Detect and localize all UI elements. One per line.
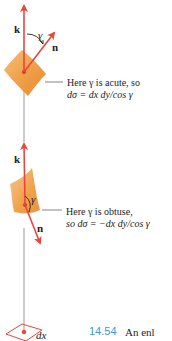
top-note-line2: dσ = dx dy/cos γ	[67, 89, 140, 101]
bottom-k-label: k	[14, 154, 20, 165]
top-note-line1: Here γ is acute, so	[67, 77, 140, 89]
bottom-n-label: n	[37, 223, 43, 234]
top-note: Here γ is acute, so dσ = dx dy/cos γ	[67, 77, 140, 101]
figure-number: 14.54	[89, 325, 117, 337]
surface-area-figure: k γ n Here γ is acute, so dσ = dx dy/cos…	[0, 0, 172, 341]
bottom-note: Here γ is obtuse, so dσ = −dx dy/cos γ	[66, 206, 150, 230]
bottom-k-vector	[24, 144, 25, 205]
top-gamma-label: γ	[38, 30, 42, 41]
bottom-note-line1: Here γ is obtuse,	[66, 206, 150, 218]
top-surface-patch	[4, 50, 46, 96]
dx-label: dx	[36, 330, 46, 341]
bottom-note-line2: so dσ = −dx dy/cos γ	[66, 218, 150, 230]
figure-caption: An enl	[125, 326, 155, 338]
bottom-gamma-label: γ	[31, 194, 35, 205]
diagram-graphics	[0, 0, 172, 341]
top-k-label: k	[14, 24, 20, 35]
top-n-label: n	[52, 42, 58, 53]
